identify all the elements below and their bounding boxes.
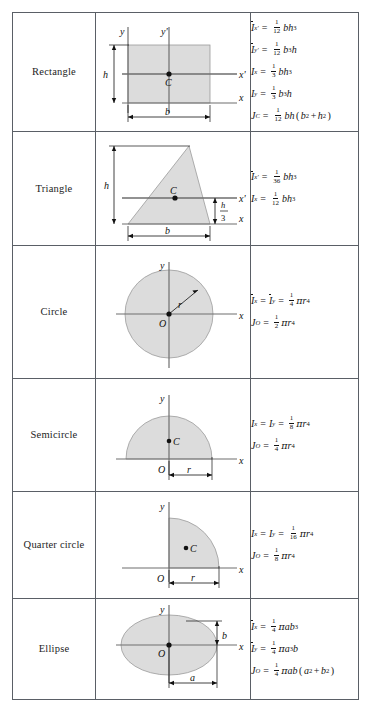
circle-svg: y x O r — [96, 246, 251, 376]
triangle-diagram: C x' x h h — [96, 132, 250, 246]
svg-text:y: y — [159, 393, 165, 404]
formula-Ix-Iy-quarter-circle: Ix= Iy= 116 πr4 — [251, 526, 358, 542]
formula-JO-ellipse: JO= 14 πab(a2+b2) — [251, 663, 358, 679]
table-row: Triangle C x' x — [13, 131, 359, 246]
svg-text:x': x' — [238, 193, 246, 204]
svg-text:h: h — [104, 180, 109, 191]
svg-text:x: x — [238, 92, 244, 103]
formula-cell-triangle: Ix'= 136 bh3 Ix= 112 bh3 — [251, 131, 359, 246]
svg-text:r: r — [191, 572, 195, 583]
table-row: Semicircle C y x O — [13, 378, 359, 491]
plane-areas-table: Rectangle — [12, 12, 359, 700]
figure-cell-semicircle: C y x O r — [96, 378, 251, 491]
svg-text:O: O — [159, 318, 166, 329]
figure-cell-ellipse: y x O b a — [96, 598, 251, 699]
ellipse-svg: y x O b a — [96, 599, 251, 698]
formula-JO-quarter-circle: JO= 18 πr4 — [251, 548, 358, 564]
svg-text:a: a — [190, 672, 195, 683]
ellipse-diagram: y x O b a — [96, 599, 250, 699]
triangle-svg: C x' x h h — [96, 132, 251, 244]
svg-text:b: b — [165, 106, 170, 117]
svg-text:x: x — [238, 641, 244, 652]
rectangle-svg: y y' x' x C h — [96, 13, 251, 129]
formula-Ix-ellipse: Ix= 14 πab3 — [251, 619, 358, 635]
formula-cell-rectangle: Ix'= 112 bh3 Iy'= 112 b3h Ix= 13 bh3 — [251, 13, 359, 132]
svg-text:y: y — [159, 260, 165, 271]
formula-Iy-ellipse: Iy= 14 πa3b — [251, 641, 358, 657]
svg-text:3: 3 — [221, 213, 225, 223]
rectangle-diagram: y y' x' x C h — [96, 13, 250, 131]
svg-text:r: r — [187, 464, 191, 475]
formula-cell-circle: Ix= Iy= 14 πr4 JO= 12 πr4 — [251, 246, 359, 379]
formula-JO-circle: JO= 12 πr4 — [251, 315, 358, 331]
shape-name-quarter-circle: Quarter circle — [13, 492, 96, 598]
table-row: Rectangle — [13, 13, 359, 132]
formula-Ixprime-triangle: Ix'= 136 bh3 — [251, 169, 358, 185]
svg-text:C: C — [170, 185, 177, 196]
formula-cell-quarter-circle: Ix= Iy= 116 πr4 JO= 18 πr4 — [251, 492, 359, 598]
svg-text:C: C — [173, 436, 180, 447]
svg-text:C: C — [190, 543, 197, 554]
svg-text:y: y — [119, 26, 125, 37]
svg-text:x': x' — [238, 69, 246, 80]
svg-text:x: x — [238, 455, 244, 466]
svg-text:y: y — [159, 604, 165, 615]
shape-name-triangle: Triangle — [13, 131, 96, 246]
svg-text:y: y — [159, 501, 165, 512]
table-row: Ellipse y x O — [13, 598, 359, 699]
shape-name-semicircle: Semicircle — [13, 378, 96, 491]
figure-cell-rectangle: y y' x' x C h — [96, 13, 251, 132]
formula-Iy-rectangle: Iy= 13 b3h — [251, 86, 358, 102]
table-row: Circle y x O r — [13, 246, 359, 379]
formula-cell-ellipse: Ix= 14 πab3 Iy= 14 πa3b JO= 14 πab(a2+b2… — [251, 598, 359, 699]
formula-JO-semicircle: JO= 14 πr4 — [251, 438, 358, 454]
shape-name-ellipse: Ellipse — [13, 598, 96, 699]
table-row: Quarter circle C y x O — [13, 492, 359, 598]
figure-cell-quarter-circle: C y x O r — [96, 492, 251, 598]
svg-text:x: x — [238, 213, 244, 224]
svg-text:C: C — [165, 77, 172, 88]
figure-cell-circle: y x O r — [96, 246, 251, 379]
figure-cell-triangle: C x' x h h — [96, 131, 251, 246]
formula-Ix-Iy-circle: Ix= Iy= 14 πr4 — [251, 293, 358, 309]
formula-cell-semicircle: Ix= Iy= 18 πr4 JO= 14 πr4 — [251, 378, 359, 491]
svg-text:O: O — [158, 648, 165, 659]
properties-of-plane-areas-figure: Rectangle — [0, 0, 370, 714]
shape-name-rectangle: Rectangle — [13, 13, 96, 132]
svg-text:b: b — [165, 225, 170, 236]
shape-name-circle: Circle — [13, 246, 96, 379]
formula-Iyprime-rectangle: Iy'= 112 b3h — [251, 42, 358, 58]
svg-text:O: O — [158, 464, 165, 475]
svg-text:y': y' — [160, 26, 168, 37]
svg-text:x: x — [238, 564, 244, 575]
formula-Ix-Iy-semicircle: Ix= Iy= 18 πr4 — [251, 416, 358, 432]
svg-text:r: r — [178, 299, 182, 310]
svg-text:h: h — [221, 200, 225, 210]
svg-text:x: x — [238, 310, 244, 321]
quarter-circle-svg: C y x O r — [96, 492, 251, 596]
formula-Ix-triangle: Ix= 112 bh3 — [251, 191, 358, 207]
svg-text:b: b — [222, 630, 227, 641]
formula-Ixprime-rectangle: Ix'= 112 bh3 — [251, 20, 358, 36]
circle-diagram: y x O r — [96, 246, 250, 378]
formula-Ix-rectangle: Ix= 13 bh3 — [251, 64, 358, 80]
svg-text:h: h — [103, 69, 108, 80]
formula-JC-rectangle: JC= 112 bh(b2+h2) — [251, 108, 358, 124]
quarter-circle-diagram: C y x O r — [96, 492, 250, 597]
svg-text:O: O — [157, 573, 164, 584]
semicircle-diagram: C y x O r — [96, 379, 250, 491]
semicircle-svg: C y x O r — [96, 379, 251, 490]
